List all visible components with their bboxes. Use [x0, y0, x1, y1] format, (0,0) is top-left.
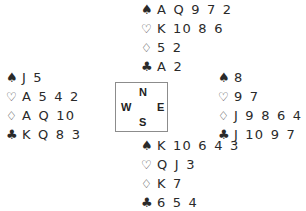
north-spades-row: ♠A Q 9 7 2	[141, 0, 232, 19]
heart-icon: ♡	[141, 20, 157, 39]
west-hand: ♠J 5 ♡A 5 4 2 ♢A Q 10 ♣K Q 8 3	[6, 68, 81, 144]
heart-icon: ♡	[6, 88, 22, 107]
spade-icon: ♠	[141, 0, 157, 19]
east-spades: 8	[234, 68, 243, 87]
north-diamonds: 5 2	[157, 38, 182, 57]
club-icon: ♣	[141, 193, 157, 211]
compass-south-label: S	[139, 116, 146, 128]
west-spades-row: ♠J 5	[6, 68, 81, 87]
south-hearts-row: ♡Q J 3	[141, 155, 239, 174]
west-diamonds: A Q 10	[22, 106, 75, 125]
south-clubs-row: ♣6 5 4	[141, 193, 239, 211]
north-hearts-row: ♡K 10 8 6	[141, 19, 232, 38]
heart-icon: ♡	[218, 88, 234, 107]
south-hand: ♠K 10 6 4 3 ♡Q J 3 ♢K 7 ♣6 5 4	[141, 136, 239, 211]
east-hand: ♠8 ♡9 7 ♢J 9 8 6 4 3 ♣J 10 9 7	[218, 68, 306, 144]
heart-icon: ♡	[141, 156, 157, 175]
east-hearts-row: ♡9 7	[218, 87, 306, 106]
spade-icon: ♠	[218, 68, 234, 87]
club-icon: ♣	[141, 57, 157, 76]
east-diamonds: J 9 8 6 4 3	[234, 106, 306, 125]
compass-box: N W E S	[115, 82, 168, 132]
diamond-icon: ♢	[6, 107, 22, 126]
north-diamonds-row: ♢5 2	[141, 38, 232, 57]
spade-icon: ♠	[6, 68, 22, 87]
north-spades: A Q 9 7 2	[157, 0, 232, 19]
diamond-icon: ♢	[218, 107, 234, 126]
west-clubs-row: ♣K Q 8 3	[6, 125, 81, 144]
compass-north-label: N	[139, 86, 147, 98]
east-diamonds-row: ♢J 9 8 6 4 3	[218, 106, 306, 125]
south-diamonds-row: ♢K 7	[141, 174, 239, 193]
north-hand: ♠A Q 9 7 2 ♡K 10 8 6 ♢5 2 ♣A 2	[141, 0, 232, 76]
compass-east-label: E	[157, 101, 164, 113]
east-spades-row: ♠8	[218, 68, 306, 87]
south-hearts: Q J 3	[157, 155, 196, 174]
west-hearts-row: ♡A 5 4 2	[6, 87, 81, 106]
south-clubs: 6 5 4	[157, 193, 198, 211]
diamond-icon: ♢	[141, 39, 157, 58]
south-spades: K 10 6 4 3	[157, 136, 239, 155]
west-diamonds-row: ♢A Q 10	[6, 106, 81, 125]
west-hearts: A 5 4 2	[22, 87, 80, 106]
east-hearts: 9 7	[234, 87, 259, 106]
west-clubs: K Q 8 3	[22, 125, 81, 144]
east-clubs: J 10 9 7	[234, 125, 296, 144]
west-spades: J 5	[22, 68, 43, 87]
club-icon: ♣	[6, 125, 22, 144]
compass-west-label: W	[121, 101, 131, 113]
north-clubs: A 2	[157, 57, 183, 76]
spade-icon: ♠	[141, 136, 157, 155]
diamond-icon: ♢	[141, 175, 157, 194]
south-diamonds: K 7	[157, 174, 183, 193]
north-hearts: K 10 8 6	[157, 19, 224, 38]
south-spades-row: ♠K 10 6 4 3	[141, 136, 239, 155]
